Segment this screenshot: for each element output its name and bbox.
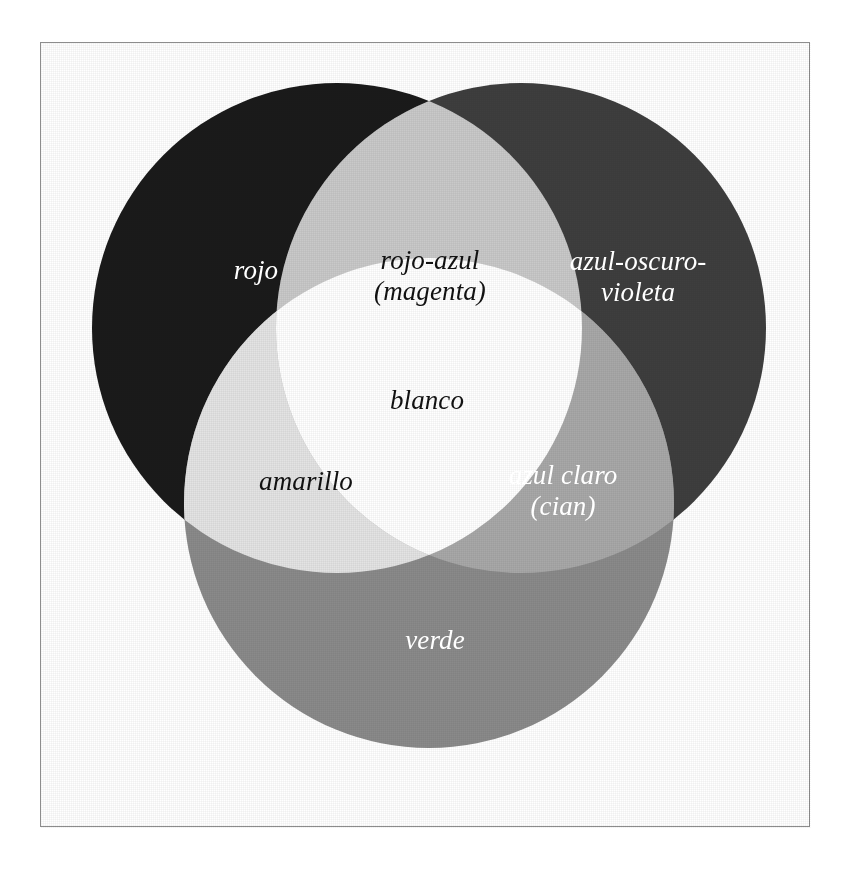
page-root: rojo rojo-azul (magenta) azul-oscuro- vi… — [0, 0, 854, 872]
figure-frame: rojo rojo-azul (magenta) azul-oscuro- vi… — [40, 42, 810, 827]
venn-diagram: rojo rojo-azul (magenta) azul-oscuro- vi… — [41, 43, 811, 828]
venn-svg — [41, 43, 811, 828]
